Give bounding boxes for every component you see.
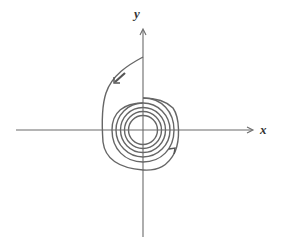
y-axis [140,29,146,237]
direction-arrow-icon [115,73,125,82]
direction-arrowhead-lower-icon [169,148,175,154]
phase-portrait-diagram [0,0,281,249]
y-axis-label: y [134,6,140,22]
trajectory-curve [102,57,178,170]
x-axis [16,127,253,133]
x-axis-label: x [260,122,267,138]
